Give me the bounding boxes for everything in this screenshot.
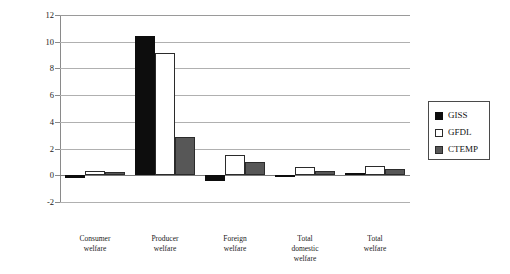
bar-gfdl-4 bbox=[365, 166, 385, 175]
legend-swatch-ctemp-icon bbox=[435, 146, 443, 154]
bar-ctemp-4 bbox=[385, 169, 405, 175]
gridline--2 bbox=[60, 202, 410, 203]
legend-item-ctemp: CTEMP bbox=[435, 141, 489, 158]
legend-label-giss: GISS bbox=[448, 111, 468, 120]
y-tick-label-12: 12 bbox=[26, 11, 54, 20]
bar-giss-2 bbox=[205, 175, 225, 181]
legend-swatch-giss-icon bbox=[435, 112, 443, 120]
gridline-12 bbox=[60, 15, 410, 16]
legend-item-giss: GISS bbox=[435, 107, 489, 124]
category-label-line: Total bbox=[330, 234, 420, 244]
bar-giss-4 bbox=[345, 173, 365, 175]
bar-ctemp-0 bbox=[105, 172, 125, 175]
bar-gfdl-2 bbox=[225, 155, 245, 176]
gridline-8 bbox=[60, 68, 410, 69]
bar-gfdl-3 bbox=[295, 167, 315, 175]
gridline-10 bbox=[60, 42, 410, 43]
bar-gfdl-1 bbox=[155, 53, 175, 175]
category-label-4: Totalwelfare bbox=[330, 234, 420, 254]
y-tick-label-0: 0 bbox=[26, 171, 54, 180]
category-label-line: welfare bbox=[330, 244, 420, 254]
legend: GISS GFDL CTEMP bbox=[428, 101, 490, 160]
legend-label-ctemp: CTEMP bbox=[448, 145, 478, 154]
y-tick-label-6: 6 bbox=[26, 91, 54, 100]
gridline-6 bbox=[60, 95, 410, 96]
y-tick-label--2: -2 bbox=[26, 198, 54, 207]
category-label-line: welfare bbox=[260, 254, 350, 264]
gridline-0 bbox=[60, 175, 410, 176]
gridline-2 bbox=[60, 149, 410, 150]
plot-area bbox=[60, 15, 410, 202]
bar-giss-0 bbox=[65, 175, 85, 178]
bar-giss-3 bbox=[275, 175, 295, 177]
legend-item-gfdl: GFDL bbox=[435, 124, 489, 141]
y-tick-label-8: 8 bbox=[26, 64, 54, 73]
bar-ctemp-3 bbox=[315, 171, 335, 176]
y-tick-label-4: 4 bbox=[26, 118, 54, 127]
bar-gfdl-0 bbox=[85, 171, 105, 176]
legend-label-gfdl: GFDL bbox=[448, 128, 472, 137]
bar-giss-1 bbox=[135, 36, 155, 175]
y-tick-label-10: 10 bbox=[26, 38, 54, 47]
bar-chart: 121086420-2 ConsumerwelfareProducerwelfa… bbox=[0, 0, 510, 274]
y-tick-label-2: 2 bbox=[26, 145, 54, 154]
legend-swatch-gfdl-icon bbox=[435, 129, 443, 137]
bar-ctemp-1 bbox=[175, 137, 195, 176]
gridline-4 bbox=[60, 122, 410, 123]
bar-ctemp-2 bbox=[245, 162, 265, 175]
